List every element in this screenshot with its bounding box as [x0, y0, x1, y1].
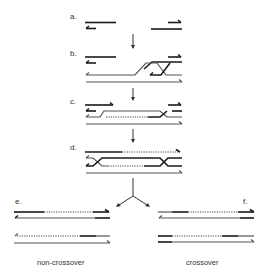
- arrow-down-icon: [131, 88, 135, 101]
- step-c-synthesis: [85, 103, 182, 125]
- step-a-broken-duplex: [85, 20, 182, 29]
- step-d-double-holliday-junction: [85, 150, 182, 174]
- step-f-crossover-products: [158, 210, 254, 243]
- step-b-strand-invasion: [85, 55, 182, 83]
- arrow-down-icon: [131, 129, 135, 143]
- diagram-graphics: .d { stroke: #1a1a1a; stroke-width: 1.6;…: [0, 0, 266, 277]
- arrow-down-icon: [131, 34, 135, 49]
- resolution-split-arrow-icon: [116, 178, 150, 207]
- recombination-diagram: a. b. c. d. e. f. non-crossover crossove…: [0, 0, 266, 277]
- step-e-non-crossover-products: [14, 210, 110, 244]
